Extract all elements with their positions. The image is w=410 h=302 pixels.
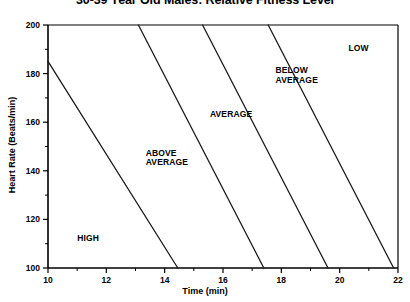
x-tick-label: 12 — [94, 275, 118, 285]
x-tick-label: 14 — [153, 275, 177, 285]
zone-label-line: LOW — [348, 44, 368, 54]
zone-label-above-average: ABOVEAVERAGE — [146, 149, 188, 168]
zone-label-high: HIGH — [77, 234, 99, 244]
y-tick-label: 100 — [14, 263, 40, 273]
y-axis-title: Heart Rate (Beats/min) — [7, 80, 17, 210]
boundary-line-4 — [268, 25, 393, 268]
zone-label-line: AVERAGE — [276, 76, 318, 86]
y-tick-label: 180 — [14, 69, 40, 79]
boundary-line-3 — [203, 25, 328, 268]
boundary-line-2 — [138, 25, 263, 268]
zone-label-line: AVERAGE — [146, 158, 188, 168]
zone-label-average: AVERAGE — [210, 110, 252, 120]
fitness-level-chart: 30-39 Year Old Males: Relative Fitness L… — [0, 0, 410, 302]
x-tick-label: 18 — [269, 275, 293, 285]
y-tick-label: 200 — [14, 20, 40, 30]
x-tick-label: 10 — [36, 275, 60, 285]
zone-label-low: LOW — [348, 44, 368, 54]
x-tick-label: 22 — [386, 275, 410, 285]
x-tick-label: 16 — [211, 275, 235, 285]
zone-label-below-average: BELOWAVERAGE — [276, 66, 318, 85]
zone-label-line: HIGH — [77, 234, 99, 244]
x-tick-label: 20 — [328, 275, 352, 285]
y-tick-label: 140 — [14, 166, 40, 176]
zone-label-line: AVERAGE — [210, 110, 252, 120]
x-axis-title: Time (min) — [0, 286, 410, 296]
y-tick-label: 120 — [14, 214, 40, 224]
y-tick-label: 160 — [14, 117, 40, 127]
